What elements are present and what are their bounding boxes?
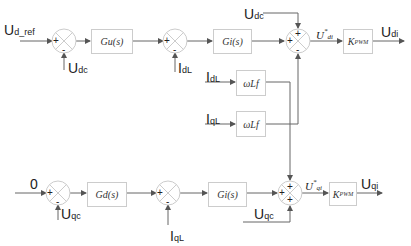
block-wlf-d: ωLf (236, 70, 266, 96)
summer-q1-plus: + (47, 188, 53, 198)
label-uqi-ref: U*qi (305, 177, 322, 193)
label-udi-output: Udi (381, 24, 398, 40)
label-uqi-output: Uqi (361, 176, 378, 192)
label-uqc-feedback: Uqc (61, 206, 81, 222)
summer-q3-plus-top: + (287, 182, 293, 192)
kpwm-d-sub: PWM (355, 39, 369, 45)
summer-d2-minus: - (173, 45, 176, 55)
block-wlf-q: ωLf (236, 111, 266, 137)
label-udc-feedback: Udc (68, 60, 88, 76)
label-iql-feedback: IqL (170, 228, 184, 244)
summer-d1-plus: + (53, 36, 59, 46)
block-gi-d: Gi(s) (213, 29, 252, 54)
kpwm-d-main: K (348, 36, 355, 47)
block-kpwm-d: KPWM (343, 29, 373, 54)
summer-d3-plus-left: + (287, 36, 293, 46)
summer-d3-plus-top: + (295, 29, 301, 39)
label-udi-ref: U*di (316, 26, 333, 42)
block-gi-q: Gi(s) (208, 182, 247, 207)
label-idl-feedback: IdL (178, 60, 192, 76)
summer-d2-plus: + (164, 36, 170, 46)
label-uqc-bottom: Uqc (254, 206, 274, 222)
kpwm-q-sub: PWM (340, 191, 354, 197)
summer-q3-plus-left: + (279, 188, 285, 198)
summer-d1-minus: - (62, 45, 65, 55)
block-gu: Gu(s) (91, 29, 133, 54)
label-q-input-zero: 0 (30, 177, 38, 191)
kpwm-q-main: K (333, 189, 340, 200)
summer-q3-plus-bottom: + (287, 195, 293, 205)
label-ud-ref: Ud_ref (4, 22, 35, 38)
summer-q1-minus: - (56, 197, 59, 207)
label-udc-top: Udc (244, 6, 264, 22)
block-gd: Gd(s) (87, 182, 127, 207)
label-idl-coupling: IdL (206, 69, 220, 85)
summer-q2-plus: + (157, 188, 163, 198)
summer-d3-minus: - (296, 45, 299, 55)
label-iql-coupling: IqL (206, 111, 220, 127)
summer-q2-minus: - (166, 197, 169, 207)
block-kpwm-q: KPWM (329, 182, 357, 206)
